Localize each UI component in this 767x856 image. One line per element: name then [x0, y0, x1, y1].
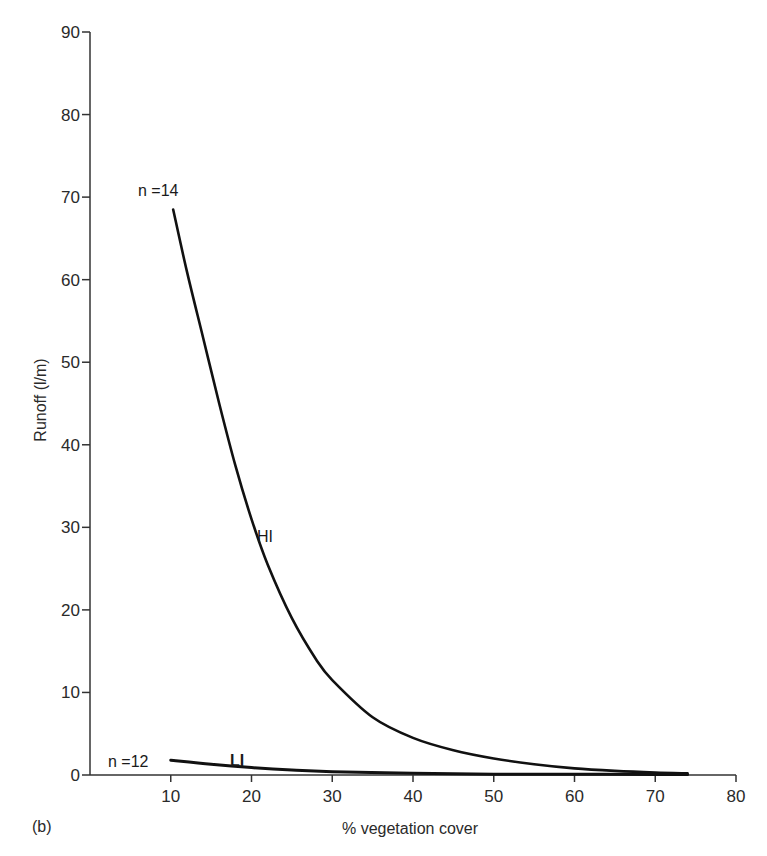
li-series-label: LI — [230, 752, 244, 769]
series-line-hi — [173, 209, 687, 773]
y-tick-label: 80 — [61, 106, 80, 125]
series-lines — [171, 209, 688, 774]
hi-n-label: n =14 — [138, 182, 179, 199]
series-line-li — [171, 760, 688, 774]
y-tick-label: 0 — [71, 766, 80, 785]
x-tick-label: 30 — [323, 787, 342, 806]
y-tick-label: 60 — [61, 271, 80, 290]
x-tick-label: 70 — [646, 787, 665, 806]
y-axis-title: Runoff (l/m) — [32, 358, 49, 441]
y-tick-label: 90 — [61, 23, 80, 42]
y-tick-label: 50 — [61, 353, 80, 372]
hi-series-label: HI — [257, 528, 273, 545]
x-tick-label: 10 — [161, 787, 180, 806]
x-tick-label: 40 — [404, 787, 423, 806]
x-axis-title: % vegetation cover — [342, 820, 479, 837]
x-tick-label: 60 — [565, 787, 584, 806]
x-ticks: 1020304050607080 — [161, 775, 745, 806]
li-n-label: n =12 — [108, 753, 149, 770]
x-tick-label: 50 — [484, 787, 503, 806]
axes — [90, 32, 736, 775]
panel-label: (b) — [32, 818, 52, 835]
y-tick-label: 10 — [61, 683, 80, 702]
y-tick-label: 30 — [61, 518, 80, 537]
y-tick-label: 20 — [61, 601, 80, 620]
x-tick-label: 80 — [727, 787, 746, 806]
y-tick-label: 40 — [61, 436, 80, 455]
y-ticks: 0102030405060708090 — [61, 23, 90, 785]
runoff-vs-vegetation-chart: 0102030405060708090 1020304050607080 Run… — [0, 0, 767, 856]
x-tick-label: 20 — [242, 787, 261, 806]
y-tick-label: 70 — [61, 188, 80, 207]
